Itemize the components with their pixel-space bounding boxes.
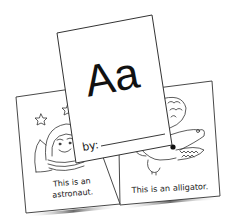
mini-book-illustration: This is an alligator. This i: [0, 0, 233, 224]
cover-letters: Aa: [81, 47, 143, 105]
cover-page: Aa by:: [57, 15, 172, 163]
